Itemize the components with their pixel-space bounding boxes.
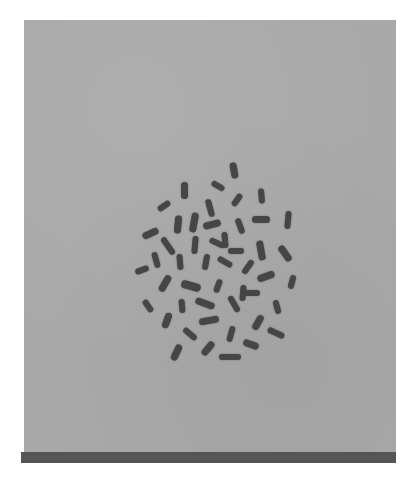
chromosome [221,232,228,248]
chromosome [176,254,183,270]
chromosome [244,290,260,296]
chromosome [219,354,241,360]
chromosome [228,248,244,254]
chromosome [257,188,264,203]
chromosome [174,215,183,234]
bottom-dark-bar [21,452,396,463]
chromosome [252,216,270,223]
chromosome [178,299,185,313]
microscopy-image-panel [24,20,396,452]
chromosome [181,182,188,199]
